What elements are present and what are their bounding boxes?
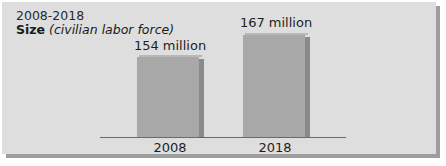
bar-2018 (243, 35, 305, 137)
x-axis-baseline (100, 137, 346, 138)
chart-subtitle: 2008-2018 (16, 8, 84, 23)
chart-title-bold: Size (16, 22, 45, 37)
chart-panel: 2008-2018 Size (civilian labor force) (2, 2, 436, 154)
chart-title: Size (civilian labor force) (16, 22, 174, 37)
x-tick-2018: 2018 (258, 140, 291, 155)
value-label-2008: 154 million (134, 38, 206, 53)
bar-2008 (137, 57, 199, 137)
chart-title-italic: (civilian labor force) (49, 22, 174, 37)
x-tick-2008: 2008 (153, 140, 186, 155)
bar-2008-top (139, 55, 202, 57)
bar-2018-side (305, 37, 310, 137)
bar-2008-side (199, 59, 204, 137)
bar-2018-top (245, 33, 308, 35)
value-label-2018: 167 million (240, 15, 312, 30)
